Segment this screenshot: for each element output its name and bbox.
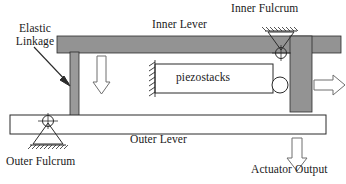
elastic-linkage-bar xyxy=(70,52,79,117)
right-vertical-column xyxy=(290,36,312,112)
label-elastic-linkage: Elastic Linkage xyxy=(4,22,66,48)
label-actuator-output: Actuator Output xyxy=(251,163,328,176)
piezostack-fixed-support-icon xyxy=(149,60,155,97)
inner-lever-force-arrow xyxy=(93,56,110,94)
label-piezostacks: piezostacks xyxy=(176,71,230,84)
label-inner-lever: Inner Lever xyxy=(152,18,207,31)
outer-lever-beam xyxy=(10,115,326,134)
label-outer-fulcrum: Outer Fulcrum xyxy=(6,155,75,168)
right-output-arrow xyxy=(314,75,345,95)
label-elastic-linkage-line1: Elastic xyxy=(4,22,66,35)
diagram-canvas: Elastic Linkage Inner Lever Inner Fulcru… xyxy=(0,0,346,184)
label-inner-fulcrum: Inner Fulcrum xyxy=(231,2,298,15)
label-outer-lever: Outer Lever xyxy=(130,133,187,146)
piezostack-roller-circle xyxy=(272,77,288,93)
label-elastic-linkage-line2: Linkage xyxy=(4,35,66,48)
